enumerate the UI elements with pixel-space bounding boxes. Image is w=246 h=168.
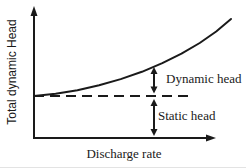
- y-axis-label: Total dynamic Head: [6, 19, 18, 124]
- annotation-arrows: [150, 67, 157, 136]
- arrowhead-icon: [150, 99, 157, 106]
- arrowhead-icon: [150, 129, 157, 136]
- pump-head-chart: Total dynamic Head Discharge rate Dynami…: [0, 0, 246, 168]
- x-axis-label: Discharge rate: [86, 147, 161, 160]
- y-axis-arrow-icon: [31, 6, 38, 16]
- static-head-label: Static head: [158, 109, 215, 122]
- dynamic-head-label: Dynamic head: [166, 72, 241, 85]
- x-axis-arrow-icon: [206, 135, 216, 142]
- arrowhead-icon: [150, 86, 157, 93]
